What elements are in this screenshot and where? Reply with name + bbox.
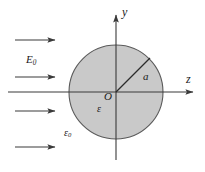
permittivity-inside-label: ε <box>97 104 101 114</box>
origin-label: O <box>104 91 112 102</box>
physics-figure-dielectric-sphere: y z a O ε E0 ε0 <box>0 0 205 172</box>
permittivity-outside-label: ε0 <box>64 128 71 139</box>
external-field-label: E0 <box>26 54 36 67</box>
external-field-symbol: E <box>26 53 33 65</box>
z-axis-label: z <box>186 73 191 85</box>
y-axis-label: y <box>122 6 127 18</box>
figure-canvas <box>0 0 205 172</box>
external-field-subscript: 0 <box>33 59 37 67</box>
permittivity-outside-subscript: 0 <box>68 131 71 138</box>
radius-label: a <box>143 71 149 82</box>
